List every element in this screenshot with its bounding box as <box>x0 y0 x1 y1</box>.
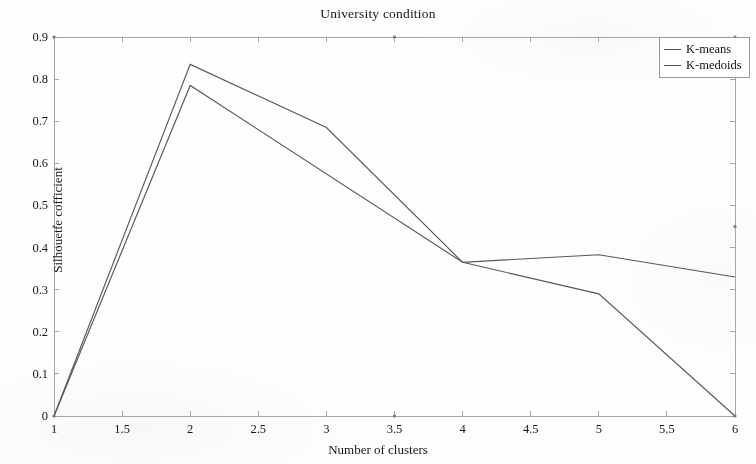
x-tick-label: 4.5 <box>523 422 539 437</box>
x-tick-label: 2.5 <box>250 422 266 437</box>
series-lines <box>54 64 735 416</box>
legend-label: K-means <box>686 43 731 56</box>
x-tick-label: 1.5 <box>114 422 130 437</box>
legend-line-swatch-icon <box>664 65 681 66</box>
legend-item-k-means: K-means <box>664 41 742 57</box>
axes-frame <box>54 37 735 416</box>
x-tick-label: 3.5 <box>387 422 403 437</box>
series-line-k-medoids <box>54 85 735 416</box>
axis-tick-marks <box>54 37 735 416</box>
axis-corner-markers <box>52 35 736 417</box>
x-tick-label: 2 <box>187 422 193 437</box>
x-tick-label: 4 <box>459 422 465 437</box>
y-axis-title: Silhouette cofficient <box>50 120 66 320</box>
chart-legend: K-means K-medoids <box>659 37 750 78</box>
x-tick-label: 1 <box>51 422 57 437</box>
y-tick-label: 0 <box>8 409 48 424</box>
x-tick-label: 5.5 <box>659 422 675 437</box>
x-tick-label: 5 <box>596 422 602 437</box>
x-axis-title: Number of clusters <box>0 442 756 458</box>
legend-label: K-medoids <box>686 59 742 72</box>
y-axis-title-container: Silhouette cofficient <box>24 40 44 400</box>
legend-line-swatch-icon <box>664 49 681 50</box>
plot-area <box>0 0 756 464</box>
chart-figure: University condition 00.10.20.30.40.50.6… <box>0 0 756 464</box>
x-tick-label: 6 <box>732 422 738 437</box>
legend-item-k-medoids: K-medoids <box>664 57 742 73</box>
x-tick-label: 3 <box>323 422 329 437</box>
series-line-k-means <box>54 64 735 416</box>
